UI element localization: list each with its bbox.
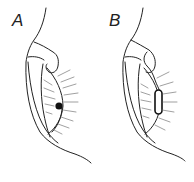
panel-a: A: [0, 0, 97, 182]
eye-diagram-a: [0, 0, 97, 182]
punctum-dot-icon: [55, 102, 62, 109]
plug-icon: [155, 90, 162, 114]
panel-b: B: [97, 0, 194, 182]
eye-diagram-b: [97, 0, 194, 182]
